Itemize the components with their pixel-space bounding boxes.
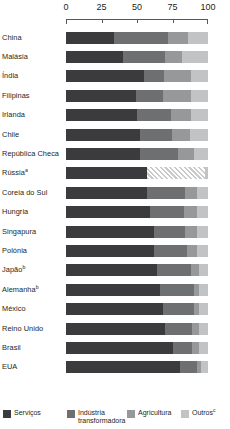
row-label-china: China — [2, 34, 22, 42]
row-label-m-xico: México — [2, 305, 26, 313]
row-label-text: Japão — [2, 265, 22, 274]
row-label-text: Chile — [2, 130, 19, 139]
chart-row: Brasil — [0, 338, 230, 357]
stacked-bar — [66, 264, 208, 276]
bar-segment-industry — [147, 187, 185, 199]
chart-row: Irlanda — [0, 106, 230, 125]
bar-segment-services — [66, 51, 123, 63]
bar-segment-services — [66, 245, 154, 257]
row-label-text: México — [2, 304, 26, 313]
stacked-bar — [66, 323, 208, 335]
bar-segment-services — [66, 284, 160, 296]
legend-item-other[interactable]: Outrosc — [181, 409, 216, 418]
row-label-mal-sia: Malásia — [2, 53, 28, 61]
row-label-text: República Checa — [2, 149, 59, 158]
chart-x-axis: 0255075100 — [0, 0, 230, 28]
axis-tick-label: 0 — [63, 2, 68, 12]
row-label-text: Índia — [2, 71, 18, 80]
legend-item-industry[interactable]: Indústria transformadora — [67, 409, 124, 425]
legend-label: Agricultura — [138, 409, 171, 417]
stacked-bar — [66, 51, 208, 63]
row-label-footnote: a — [25, 167, 28, 173]
stacked-bar — [66, 148, 208, 160]
bar-segment-agriculture — [172, 129, 189, 141]
bar-segment-other — [188, 32, 208, 44]
stacked-bar — [66, 90, 208, 102]
legend-item-services[interactable]: Serviços — [3, 409, 41, 418]
bar-segment-industry — [163, 303, 194, 315]
bar-segment-other — [199, 323, 208, 335]
bar-segment-agriculture — [191, 264, 200, 276]
bar-segment-industry — [160, 284, 194, 296]
axis-tick-label: 75 — [167, 2, 177, 12]
bar-segment-other — [199, 284, 208, 296]
axis-tick-mark — [66, 19, 67, 24]
chart-plot-area: ChinaMalásiaÍndiaFilipinasIrlandaChileRe… — [0, 28, 230, 377]
bar-segment-other — [199, 264, 208, 276]
bar-segment-services — [66, 323, 165, 335]
bar-segment-industry — [140, 129, 173, 141]
legend-label-text: Indústria transformadora — [78, 409, 125, 424]
row-label-pol-nia: Polónia — [2, 247, 27, 255]
bar-segment-services — [66, 206, 150, 218]
bar-segment-services — [66, 303, 163, 315]
stacked-bar — [66, 245, 208, 257]
chart-row: Singapura — [0, 222, 230, 241]
row-label-chile: Chile — [2, 131, 19, 139]
bar-segment-agriculture — [192, 342, 199, 354]
chart-row: Japãob — [0, 261, 230, 280]
stacked-bar — [66, 109, 208, 121]
chart-row: Alemanhab — [0, 280, 230, 299]
bar-segment-industry — [123, 51, 166, 63]
stacked-bar — [66, 284, 208, 296]
bar-segment-industry — [140, 148, 178, 160]
bar-segment-services — [66, 70, 144, 82]
bar-segment-services — [66, 167, 147, 179]
chart-row: Índia — [0, 67, 230, 86]
bar-segment-services — [66, 129, 140, 141]
bar-segment-agriculture — [187, 245, 197, 257]
bar-segment-other — [190, 129, 208, 141]
stacked-bar — [66, 303, 208, 315]
bar-segment-other — [199, 303, 208, 315]
bar-segment-other — [197, 245, 208, 257]
legend-label: Serviços — [14, 409, 41, 417]
bar-segment-industry — [154, 245, 187, 257]
axis-tick-label: 50 — [132, 2, 142, 12]
bar-segment-agriculture — [192, 323, 199, 335]
legend-label-text: Outros — [192, 409, 213, 416]
chart-row: Filipinas — [0, 86, 230, 105]
legend-label-text: Serviços — [14, 409, 41, 416]
axis-tick-label: 25 — [96, 2, 106, 12]
bar-segment-other — [191, 90, 208, 102]
bar-segment-other — [191, 109, 208, 121]
legend-label-footnote: c — [213, 407, 216, 413]
chart-row: República Checa — [0, 144, 230, 163]
row-label-singapura: Singapura — [2, 228, 36, 236]
bar-segment-industry — [157, 264, 191, 276]
row-label-brasil: Brasil — [2, 344, 21, 352]
stacked-bar — [66, 129, 208, 141]
bar-segment-agriculture — [171, 109, 191, 121]
bar-segment-agriculture — [184, 206, 197, 218]
bar-segment-industry — [147, 167, 205, 179]
chart-row: Polónia — [0, 241, 230, 260]
chart-row: Reino Unido — [0, 319, 230, 338]
bar-segment-other — [197, 226, 208, 238]
legend-label-text: Agricultura — [138, 409, 171, 416]
axis-tick-mark — [102, 19, 103, 23]
bar-segment-agriculture — [163, 90, 191, 102]
chart-row: EUA — [0, 358, 230, 377]
stacked-bar — [66, 167, 208, 179]
legend-item-agriculture[interactable]: Agricultura — [127, 409, 171, 418]
bar-segment-services — [66, 32, 114, 44]
row-label-text: Singapura — [2, 227, 36, 236]
chart-row: Malásia — [0, 47, 230, 66]
row-label-irlanda: Irlanda — [2, 111, 25, 119]
stacked-bar-chart: 0255075100 ChinaMalásiaÍndiaFilipinasIrl… — [0, 0, 230, 429]
row-label-text: Rússia — [2, 168, 25, 177]
bar-segment-other — [182, 51, 208, 63]
bar-segment-services — [66, 187, 147, 199]
row-label-hungria: Hungria — [2, 208, 28, 216]
stacked-bar — [66, 32, 208, 44]
